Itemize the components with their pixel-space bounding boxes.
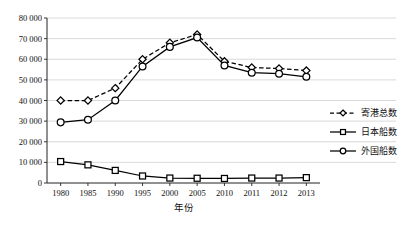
data-point-marker: [57, 119, 64, 126]
data-point-marker: [112, 85, 119, 92]
data-point-marker: [249, 175, 255, 181]
data-point-marker: [139, 63, 146, 70]
y-tick-label: 80 000: [19, 13, 42, 23]
y-tick-label: 20 000: [19, 137, 42, 147]
x-tick-label: 2010: [216, 188, 233, 198]
legend-marker-2: [341, 130, 346, 135]
data-point-marker: [58, 159, 64, 165]
y-tick-label: 60 000: [19, 54, 42, 64]
legend-label-2: 日本船数: [361, 126, 397, 137]
data-point-marker: [112, 97, 119, 104]
x-tick-labels: 1980198519901995200020052010201120122013: [52, 188, 315, 198]
series-markers: [57, 31, 310, 182]
x-tick-label: 2000: [161, 188, 178, 198]
x-tick-label: 2013: [298, 188, 315, 198]
x-axis-title: 年份: [174, 202, 194, 213]
y-tick-label: 30 000: [19, 116, 42, 126]
data-point-marker: [57, 97, 64, 104]
data-point-marker: [221, 175, 227, 181]
series-line-2: [61, 162, 307, 179]
data-point-marker: [303, 73, 310, 80]
data-point-marker: [112, 167, 118, 173]
y-tick-label: 40 000: [19, 96, 42, 106]
x-tick-label: 1980: [52, 188, 69, 198]
y-tick-label: 10 000: [19, 157, 42, 167]
data-point-marker: [85, 162, 91, 168]
data-point-marker: [167, 175, 173, 181]
data-point-marker: [84, 97, 91, 104]
data-point-marker: [140, 173, 146, 179]
y-tick-label: 0: [38, 178, 42, 188]
x-tick-label: 2005: [189, 188, 206, 198]
y-tick-labels: 010 00020 00030 00040 00050 00060 00070 …: [19, 13, 42, 188]
data-point-marker: [166, 43, 173, 50]
x-tick-label: 2012: [271, 188, 288, 198]
legend-marker-1: [340, 110, 346, 116]
series-line-1: [61, 35, 307, 101]
data-point-marker: [248, 69, 255, 76]
legend-label-1: 寄港总数: [361, 107, 397, 118]
y-tick-label: 70 000: [19, 34, 42, 44]
series-lines: [61, 35, 307, 179]
x-tick-label: 1990: [107, 188, 124, 198]
legend: 寄港总数日本船数外国船数: [330, 107, 397, 156]
legend-label-3: 外国船数: [361, 145, 397, 156]
data-point-marker: [303, 175, 309, 181]
gridlines: [47, 18, 396, 162]
data-point-marker: [276, 70, 283, 77]
data-point-marker: [194, 34, 201, 41]
x-tick-label: 1995: [134, 188, 151, 198]
chart-container: 010 00020 00030 00040 00050 00060 00070 …: [0, 0, 400, 225]
y-tick-label: 50 000: [19, 75, 42, 85]
legend-marker-3: [340, 148, 346, 154]
x-tick-label: 1985: [79, 188, 96, 198]
data-point-marker: [276, 175, 282, 181]
data-point-marker: [194, 175, 200, 181]
line-chart: 010 00020 00030 00040 00050 00060 00070 …: [0, 0, 400, 225]
x-tick-label: 2011: [243, 188, 260, 198]
data-point-marker: [221, 62, 228, 69]
data-point-marker: [85, 116, 92, 123]
